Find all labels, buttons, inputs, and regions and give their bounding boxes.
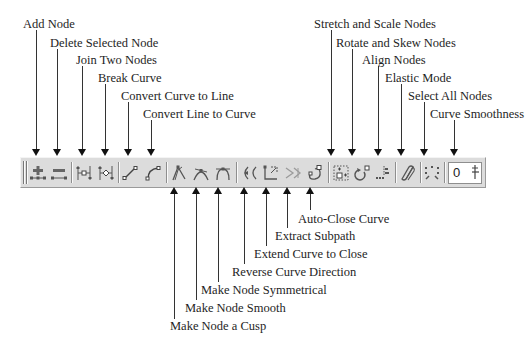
label-convert-line-to-curve: Convert Line to Curve (143, 107, 256, 121)
join-nodes-button[interactable] (74, 162, 94, 184)
reverse-direction-button[interactable] (239, 162, 259, 184)
label-reverse-curve-direction: Reverse Curve Direction (232, 265, 356, 279)
label-make-node-a-cusp: Make Node a Cusp (170, 319, 266, 333)
toolbar-separator (420, 162, 421, 183)
extend-close-button[interactable] (261, 162, 281, 184)
label-extract-subpath: Extract Subpath (275, 229, 355, 243)
label-extend-curve-to-close: Extend Curve to Close (254, 247, 368, 261)
leader-line (151, 120, 152, 149)
smooth-node-button[interactable] (191, 162, 211, 184)
add-node-button[interactable] (28, 162, 48, 184)
arrow-down-icon (32, 149, 40, 156)
symmetrical-node-button[interactable] (213, 162, 233, 184)
arrow-up-icon (214, 187, 222, 194)
arrow-down-icon (327, 149, 335, 156)
add-node-icon (29, 164, 47, 182)
select-all-nodes-icon (423, 164, 441, 182)
align-nodes-button[interactable] (373, 162, 393, 184)
extend-close-icon (262, 164, 280, 182)
toolbar-separator (118, 162, 119, 183)
arrow-down-icon (374, 149, 382, 156)
line-to-curve-icon (144, 164, 162, 182)
extract-subpath-icon (284, 164, 302, 182)
leader-line (196, 194, 197, 300)
cusp-node-button[interactable] (169, 162, 189, 184)
label-elastic-mode: Elastic Mode (385, 71, 451, 85)
node-edit-toolbar: 0 (20, 157, 486, 188)
arrow-down-icon (450, 149, 458, 156)
label-make-node-symmetrical: Make Node Symmetrical (201, 283, 327, 297)
curve-smoothness-spinner[interactable] (468, 162, 482, 182)
arrow-down-icon (348, 149, 356, 156)
arrow-up-icon (170, 187, 178, 194)
break-curve-icon (97, 164, 115, 182)
leader-line (105, 84, 106, 149)
curve-to-line-icon (121, 164, 139, 182)
label-break-curve: Break Curve (98, 71, 162, 85)
elastic-mode-button[interactable] (398, 162, 418, 184)
join-nodes-icon (75, 164, 93, 182)
smooth-node-icon (192, 164, 210, 182)
leader-line (287, 194, 288, 228)
arrow-down-icon (397, 149, 405, 156)
leader-line (174, 194, 175, 319)
cusp-node-icon (170, 164, 188, 182)
extract-subpath-button[interactable] (283, 162, 303, 184)
symmetrical-node-icon (214, 164, 232, 182)
arrow-up-icon (283, 187, 291, 194)
arrow-down-icon (78, 149, 86, 156)
curve-to-line-button[interactable] (120, 162, 140, 184)
arrow-up-icon (306, 187, 314, 194)
stretch-scale-icon (332, 164, 350, 182)
line-to-curve-button[interactable] (143, 162, 163, 184)
label-auto-close-curve: Auto-Close Curve (298, 212, 389, 226)
delete-node-button[interactable] (49, 162, 69, 184)
label-curve-smoothness: Curve Smoothness (430, 107, 524, 121)
label-add-node: Add Node (23, 17, 75, 31)
rotate-skew-icon (353, 164, 371, 182)
arrow-up-icon (192, 187, 200, 194)
align-nodes-icon (374, 164, 392, 182)
toolbar-separator (444, 162, 445, 183)
leader-line (424, 102, 425, 149)
leader-line (310, 194, 311, 210)
leader-line (454, 120, 455, 149)
leader-line (378, 66, 379, 149)
label-convert-curve-to-line: Convert Curve to Line (121, 89, 234, 103)
leader-line (266, 194, 267, 246)
label-rotate-and-skew-nodes: Rotate and Skew Nodes (336, 36, 456, 50)
leader-line (352, 49, 353, 149)
arrow-up-icon (262, 187, 270, 194)
arrow-down-icon (420, 149, 428, 156)
leader-line (36, 30, 37, 149)
label-align-nodes: Align Nodes (362, 53, 426, 67)
select-all-nodes-button[interactable] (422, 162, 442, 184)
curve-smoothness-value: 0 (453, 165, 460, 180)
auto-close-button[interactable] (305, 162, 325, 184)
toolbar-separator (71, 162, 72, 183)
arrow-down-icon (124, 149, 132, 156)
elastic-mode-icon (399, 164, 417, 182)
arrow-down-icon (147, 149, 155, 156)
toolbar-grip (24, 161, 25, 184)
leader-line (331, 30, 332, 149)
arrow-down-icon (101, 149, 109, 156)
break-curve-button[interactable] (96, 162, 116, 184)
toolbar-separator (328, 162, 329, 183)
rotate-skew-button[interactable] (352, 162, 372, 184)
leader-line (128, 102, 129, 149)
label-join-two-nodes: Join Two Nodes (76, 53, 157, 67)
leader-line (401, 84, 402, 149)
label-select-all-nodes: Select All Nodes (408, 89, 492, 103)
delete-node-icon (50, 164, 68, 182)
leader-line (57, 49, 58, 149)
label-stretch-and-scale-nodes: Stretch and Scale Nodes (314, 17, 436, 31)
leader-line (244, 194, 245, 264)
reverse-direction-icon (240, 164, 258, 182)
arrow-up-icon (240, 187, 248, 194)
stretch-scale-button[interactable] (331, 162, 351, 184)
auto-close-icon (306, 164, 324, 182)
spinner-icon (468, 162, 482, 182)
toolbar-separator (166, 162, 167, 183)
leader-line (82, 66, 83, 149)
